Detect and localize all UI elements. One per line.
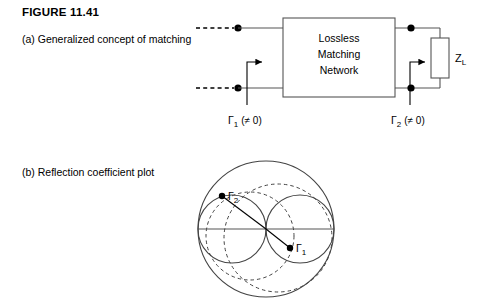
figure-canvas: Lossless Matching Network ZL Γ1(≠ 0) Γ2(…: [0, 0, 478, 305]
gamma1-condition: (≠ 0): [241, 115, 262, 126]
point-gamma1: [287, 245, 293, 251]
gamma2-label: Γ2(≠ 0): [391, 114, 425, 129]
point-gamma1-label: Γ1: [296, 242, 307, 257]
gamma1-arrow: [247, 62, 262, 105]
terminal-dot-top-right: [407, 24, 414, 31]
load-label-subscript: L: [462, 58, 467, 67]
load-impedance-box: [431, 38, 449, 78]
point-gamma2-subscript: 2: [234, 196, 239, 205]
point-gamma2-label: Γ2: [228, 190, 239, 205]
gamma2-arrow: [410, 62, 425, 105]
gamma1-label: Γ1(≠ 0): [228, 114, 262, 129]
block-label-line1: Lossless: [319, 32, 360, 44]
gamma2-subscript: 2: [397, 120, 402, 129]
block-label-line3: Network: [320, 64, 359, 76]
reflection-coefficient-plot: Γ2 Γ1: [198, 161, 334, 297]
gamma1-subscript: 1: [234, 120, 239, 129]
terminal-dot-bottom-right: [407, 84, 414, 91]
point-gamma1-subscript: 1: [302, 248, 307, 257]
circuit-diagram: Lossless Matching Network ZL Γ1(≠ 0) Γ2(…: [196, 18, 467, 129]
gamma2-condition: (≠ 0): [404, 115, 425, 126]
load-label: ZL: [455, 52, 467, 67]
point-gamma2: [219, 193, 225, 199]
dashed-circle-small: [206, 192, 294, 280]
block-label-line2: Matching: [318, 48, 361, 60]
figure-root: FIGURE 11.41 (a) Generalized concept of …: [0, 0, 478, 305]
